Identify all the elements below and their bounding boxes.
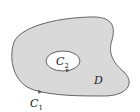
region-diagram: C2 D C1 bbox=[0, 0, 140, 112]
c1-label: C1 bbox=[30, 97, 43, 112]
region-label-d: D bbox=[93, 74, 103, 87]
